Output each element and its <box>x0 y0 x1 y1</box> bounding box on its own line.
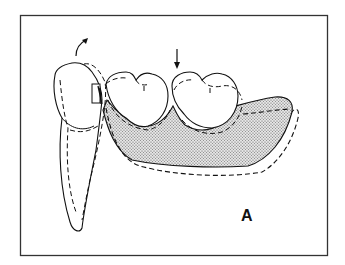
panel-label: A <box>241 207 253 225</box>
rotation-arrowhead-icon <box>82 38 88 44</box>
molar-crown-2 <box>172 72 238 128</box>
dental-diagram <box>0 0 345 265</box>
force-arrowhead-icon <box>174 62 180 69</box>
